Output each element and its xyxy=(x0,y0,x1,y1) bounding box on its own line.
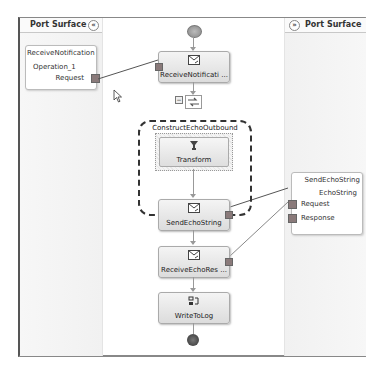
shape-label: Transform xyxy=(160,156,228,164)
flow-line xyxy=(193,323,194,334)
receive-icon xyxy=(188,55,200,65)
shape-send-echo-string[interactable]: SendEchoString xyxy=(158,199,230,231)
shape-receive-notification[interactable]: ReceiveNotificati ... xyxy=(158,51,230,83)
flow-arrow xyxy=(190,194,196,198)
mouse-cursor-icon xyxy=(113,89,123,103)
construct-message-icon xyxy=(185,95,202,109)
receive-icon xyxy=(188,250,200,260)
scope-title: ConstructEchoOutbound xyxy=(140,124,250,132)
shape-label: ReceiveNotificati ... xyxy=(159,71,229,79)
flow-line xyxy=(193,169,194,197)
flow-arrow xyxy=(190,241,196,245)
transform-icon xyxy=(189,140,199,151)
shape-port-handle[interactable] xyxy=(155,63,163,71)
shape-port-handle[interactable] xyxy=(225,211,233,219)
shape-transform[interactable]: Transform xyxy=(155,133,233,171)
end-node[interactable] xyxy=(187,334,199,346)
shape-write-to-log[interactable]: WriteToLog xyxy=(158,292,230,324)
shape-label: ReceiveEchoRes ... xyxy=(159,266,229,274)
shape-label: SendEchoString xyxy=(159,219,229,227)
send-icon xyxy=(188,203,200,213)
expression-icon xyxy=(188,296,200,306)
shape-label: WriteToLog xyxy=(159,312,229,320)
collapse-scope-button[interactable]: − xyxy=(175,96,183,104)
shape-port-handle[interactable] xyxy=(225,258,233,266)
shape-receive-echo-response[interactable]: ReceiveEchoRes ... xyxy=(158,246,230,278)
start-node[interactable] xyxy=(187,25,202,38)
